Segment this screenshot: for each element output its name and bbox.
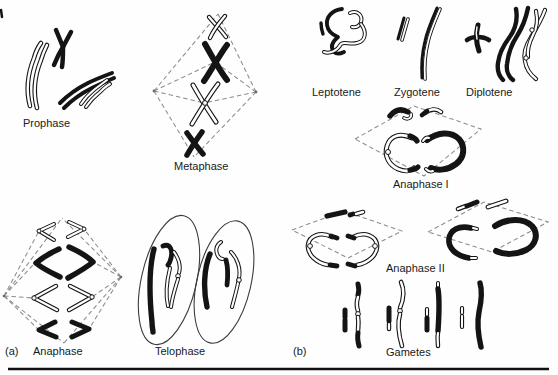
gamete-1: [345, 284, 360, 346]
mitosis-panel: Prophase: [3, 14, 265, 357]
spindle-pole: [255, 91, 258, 94]
anaphase-label: Anaphase: [33, 345, 83, 357]
meiosis-panel: Leptotene Zygotene Diplotene: [292, 8, 548, 358]
daughter-cell-right-chromosomes: [205, 242, 242, 307]
gametes-label: Gametes: [386, 346, 431, 358]
anaphase2-label: Anaphase II: [386, 262, 445, 274]
chromosome-white-small-x: [209, 16, 226, 38]
leptotene-label: Leptotene: [312, 86, 361, 98]
chromosome-black-small-x: [187, 132, 203, 155]
spindle-fibers: [153, 14, 258, 157]
separating-chromatids-left: [32, 224, 60, 337]
diplotene-label: Diplotene: [466, 86, 512, 98]
spindle-pole: [153, 90, 156, 93]
anaphase2-spindle-right: [428, 201, 548, 258]
spindle-fibers: [3, 218, 123, 343]
gametes-group: (b) Gametes: [293, 282, 482, 358]
gamete-3: [427, 283, 439, 346]
telophase-label: Telophase: [155, 345, 205, 357]
chromosome-white-large-x: [192, 84, 218, 124]
chromosome-bottom-left: [386, 135, 419, 171]
chromosome-black-small: [54, 30, 71, 67]
gamete-4: [462, 283, 482, 347]
prophase-group: Prophase: [23, 30, 114, 129]
cell-division-figure: Prophase: [0, 0, 558, 375]
zygotene-label: Zygotene: [394, 86, 440, 98]
metaphase-label: Metaphase: [174, 160, 228, 172]
panel-a-label: (a): [5, 345, 18, 357]
leptotene-group: Leptotene: [312, 9, 365, 98]
spindle-pole: [120, 276, 123, 279]
anaphase-group: (a) Anaphase: [3, 218, 123, 357]
chromosome-top-left: [390, 110, 411, 119]
spindle-pole: [3, 295, 6, 298]
anaphase2-group: Anaphase II: [292, 201, 548, 274]
gamete-2: [389, 282, 403, 346]
anaphase1-label: Anaphase I: [393, 178, 449, 190]
anaphase2-spindle-left: [292, 211, 402, 266]
zygotene-group: Zygotene: [394, 8, 440, 98]
daughter-cell-right: [184, 215, 265, 349]
anaphase1-group: Anaphase I: [355, 106, 481, 190]
bivalent-large: [498, 8, 545, 80]
chromosome-bottom-right: [423, 133, 463, 171]
chromosome-white-large: [28, 43, 47, 108]
figure-canvas: Prophase: [0, 0, 558, 375]
daughter-cell-left-chromosomes: [150, 245, 180, 332]
separating-chromatids-right: [68, 222, 94, 337]
chiasma-cross-small: [467, 25, 489, 51]
diplotene-group: Diplotene: [466, 8, 545, 98]
centromere: [203, 101, 208, 106]
telophase-group: Telophase: [127, 210, 264, 357]
panel-b-label: (b): [293, 345, 306, 357]
metaphase-group: Metaphase: [153, 14, 258, 172]
prophase-label: Prophase: [23, 117, 70, 129]
chromosome-black-large-x: [204, 44, 227, 81]
scan-tick: [1, 10, 2, 17]
